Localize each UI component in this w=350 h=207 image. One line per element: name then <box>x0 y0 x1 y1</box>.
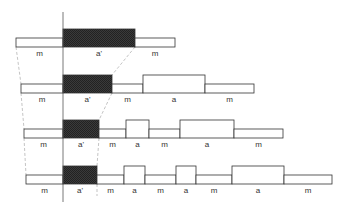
segment-label: m <box>152 49 159 58</box>
a-block <box>232 166 284 184</box>
segment-label: m <box>157 186 164 195</box>
a-prime-guide-line <box>99 93 112 120</box>
segment-label: m <box>107 186 114 195</box>
a-block <box>176 166 196 184</box>
segment-label: a' <box>85 95 91 104</box>
m-strip <box>149 129 180 138</box>
segment-label: m <box>305 186 312 195</box>
segment-label: a <box>132 186 137 195</box>
segment-label: m <box>124 95 131 104</box>
m-strip <box>24 129 63 138</box>
m-strip <box>135 38 175 47</box>
segment-label: a <box>135 140 140 149</box>
left-guide-line <box>24 138 26 175</box>
a-prime-block <box>63 75 112 93</box>
segment-label: a <box>172 95 177 104</box>
a-prime-guide-line <box>112 47 135 75</box>
segment-label: a <box>184 186 189 195</box>
segment-diagram: ma'mma'mamma'mamamma'mamamam <box>0 0 350 207</box>
segment-label: m <box>40 140 47 149</box>
a-prime-guide-line <box>97 138 99 166</box>
segment-label: a' <box>96 49 102 58</box>
a-prime-block <box>63 120 99 138</box>
m-strip <box>284 175 332 184</box>
a-prime-block <box>63 29 135 47</box>
m-strip <box>16 38 63 47</box>
segment-label: m <box>39 95 46 104</box>
m-strip <box>97 175 124 184</box>
segment-label: m <box>41 186 48 195</box>
segment-row: ma'mamamam <box>26 166 332 195</box>
segment-label: m <box>226 95 233 104</box>
m-strip <box>26 175 63 184</box>
segment-label: m <box>211 186 218 195</box>
segment-row: ma'mam <box>21 75 254 104</box>
m-strip <box>112 84 143 93</box>
segment-label: m <box>109 140 116 149</box>
segment-label: m <box>255 140 262 149</box>
m-strip <box>234 129 283 138</box>
left-guide-line <box>16 47 21 84</box>
m-strip <box>145 175 176 184</box>
a-block <box>143 75 205 93</box>
segment-label: m <box>161 140 168 149</box>
segment-row: ma'm <box>16 29 175 58</box>
a-block <box>126 120 149 138</box>
segment-rows: ma'mma'mamma'mamamma'mamamam <box>16 29 332 195</box>
left-guide-line <box>21 93 24 129</box>
m-strip <box>21 84 63 93</box>
segment-label: a' <box>78 140 84 149</box>
a-block <box>124 166 145 184</box>
m-strip <box>205 84 254 93</box>
m-strip <box>99 129 126 138</box>
m-strip <box>196 175 232 184</box>
segment-label: m <box>36 49 43 58</box>
segment-label: a <box>205 140 210 149</box>
segment-label: a' <box>77 186 83 195</box>
segment-label: a <box>256 186 261 195</box>
a-block <box>180 120 234 138</box>
a-prime-block <box>63 166 97 184</box>
